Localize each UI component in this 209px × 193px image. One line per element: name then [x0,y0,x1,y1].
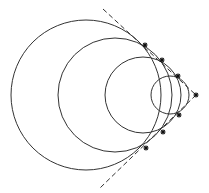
tangent-line-1 [103,9,196,95]
tangent-line-2 [100,95,196,188]
circles-group [11,20,189,170]
star-marker-icon [177,113,182,118]
star-marker-icon [194,93,199,98]
star-marker-icon [144,146,149,151]
star-marker-icon [176,74,181,79]
star-marker-icon [161,130,166,135]
diagram-canvas [0,0,209,193]
star-marker-icon [143,43,148,48]
tangent-lines-group [100,9,196,188]
star-marker-icon [160,58,165,63]
circle-3 [105,57,181,133]
